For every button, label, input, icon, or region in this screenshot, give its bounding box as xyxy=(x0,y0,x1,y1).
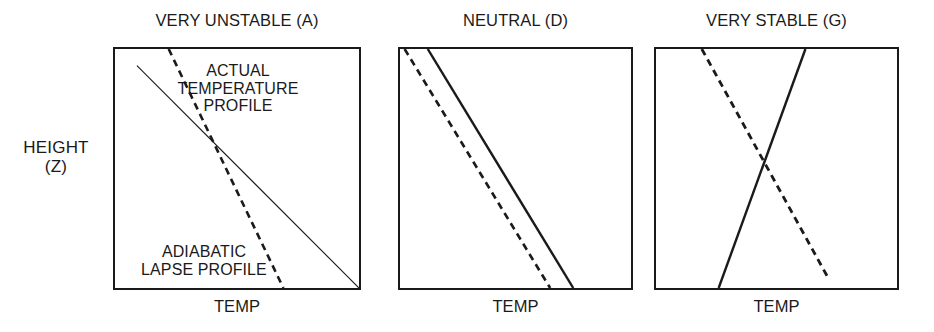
actual-temperature-profile-line xyxy=(428,49,574,288)
x-axis-label-neutral: TEMP xyxy=(398,297,633,316)
annotation-adiabatic-lapse-profile: ADIABATIC LAPSE PROFILE xyxy=(118,243,290,278)
x-axis-label-very-stable: TEMP xyxy=(654,297,899,316)
panel-neutral xyxy=(398,47,633,290)
stability-profile-figure: HEIGHT (Z) VERY UNSTABLE (A) ACTUAL TEMP… xyxy=(0,0,934,332)
panel-title-neutral: NEUTRAL (D) xyxy=(398,11,633,30)
panel-very-stable xyxy=(654,47,899,290)
adiabatic-lapse-profile-line xyxy=(405,49,551,288)
plot-area-neutral xyxy=(400,49,631,288)
x-axis-label-very-unstable: TEMP xyxy=(113,297,361,316)
panel-title-very-stable: VERY STABLE (G) xyxy=(654,11,899,30)
plot-area-very-stable xyxy=(656,49,897,288)
annotation-actual-temperature-profile: ACTUAL TEMPERATURE PROFILE xyxy=(162,62,314,115)
actual-temperature-profile-line xyxy=(719,49,806,288)
y-axis-label: HEIGHT (Z) xyxy=(4,138,108,176)
panel-title-very-unstable: VERY UNSTABLE (A) xyxy=(113,11,361,30)
